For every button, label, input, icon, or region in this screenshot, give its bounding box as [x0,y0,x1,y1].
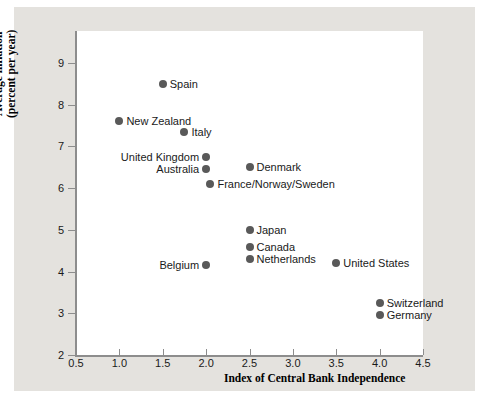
x-tick-mark [250,349,251,355]
x-axis-label: Index of Central Bank Independence [224,372,405,384]
data-point-marker [159,80,167,88]
y-axis-label-line2: (percent per year) [5,30,18,118]
x-tick-mark [119,349,120,355]
data-point-label: Japan [257,225,287,236]
x-tick-mark [293,349,294,355]
data-point-label: United Kingdom [121,152,199,163]
y-tick-label: 3 [44,308,64,319]
y-tick-label: 9 [44,58,64,69]
x-tick-label: 2.5 [230,358,270,369]
x-tick-label: 3.5 [316,358,356,369]
y-tick-mark [68,313,75,314]
y-tick-label: 5 [44,225,64,236]
data-point-marker [202,153,210,161]
data-point-label: Denmark [257,162,302,173]
data-point-label: Germany [387,310,432,321]
y-tick-mark [68,230,75,231]
data-point-marker [246,255,254,263]
x-tick-mark [163,349,164,355]
y-tick-mark [68,272,75,273]
plot-background [76,31,423,355]
data-point-label: Australia [156,164,199,175]
data-point-label: Canada [257,242,296,253]
x-tick-label: 1.0 [99,358,139,369]
y-tick-mark [68,355,75,356]
data-point-label: Switzerland [387,298,444,309]
data-point-marker [246,226,254,234]
x-tick-mark [206,349,207,355]
x-tick-label: 1.5 [143,358,183,369]
data-point-marker [376,311,384,319]
y-tick-mark [68,188,75,189]
data-point-marker [376,299,384,307]
x-tick-mark [380,349,381,355]
x-tick-mark [423,349,424,355]
x-tick-label: 0.5 [56,358,96,369]
data-point-marker [246,243,254,251]
y-tick-mark [68,63,75,64]
data-point-label: Italy [191,127,211,138]
y-axis-label: Average inflation (percent per year) [0,30,18,118]
x-tick-mark [336,349,337,355]
data-point-label: United States [343,258,409,269]
data-point-marker [246,163,254,171]
y-tick-label: 6 [44,183,64,194]
data-point-label: Belgium [159,260,199,271]
scatter-plot-figure: 23456789 0.51.01.52.02.53.03.54.04.5 Spa… [0,0,489,401]
data-point-label: France/Norway/Sweden [217,179,334,190]
x-tick-label: 3.0 [273,358,313,369]
x-tick-label: 4.5 [403,358,443,369]
data-point-label: Spain [170,79,198,90]
y-tick-mark [68,105,75,106]
data-point-label: Netherlands [257,254,316,265]
y-tick-mark [68,146,75,147]
data-point-label: New Zealand [126,116,191,127]
y-tick-label: 4 [44,267,64,278]
y-tick-label: 7 [44,141,64,152]
y-tick-label: 8 [44,100,64,111]
x-tick-label: 2.0 [186,358,226,369]
y-axis-line [75,31,77,357]
x-tick-label: 4.0 [360,358,400,369]
